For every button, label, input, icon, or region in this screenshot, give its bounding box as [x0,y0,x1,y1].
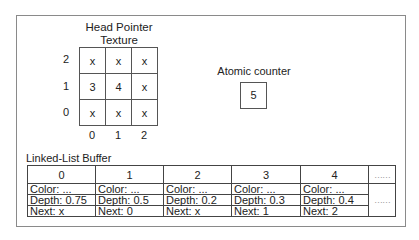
row-label: 0 [59,106,73,118]
node-next: Next: 0 [96,206,164,217]
node-index: 3 [232,166,301,184]
ellipsis-body: …… [369,184,396,217]
grid-cell: x [80,100,106,126]
node-index: 2 [164,166,232,184]
grid-cell: x [132,100,158,126]
node-color: Color: ... [28,184,96,195]
node-index: 1 [96,166,164,184]
node-index: 4 [301,166,369,184]
node-depth: Depth: 0.4 [301,195,369,206]
grid-row: x x x [80,48,158,74]
col-label: 0 [79,129,105,141]
grid-cell: x [132,48,158,74]
linked-list-table: 0 1 2 3 4 …… Color: ... Color: ... Color… [27,165,396,217]
col-label: 2 [131,129,157,141]
node-next: Next: 2 [301,206,369,217]
head-pointer-title: Head Pointer Texture [79,21,159,47]
ellipsis-header: …… [369,166,396,184]
grid-row: 3 4 x [80,74,158,100]
row-label: 1 [59,80,73,92]
linked-list-color-row: Color: ... Color: ... Color: ... Color: … [28,184,396,195]
col-label: 1 [105,129,131,141]
node-depth: Depth: 0.75 [28,195,96,206]
node-next: Next: x [164,206,232,217]
node-depth: Depth: 0.3 [232,195,301,206]
node-next: Next: x [28,206,96,217]
grid-row: x x x [80,100,158,126]
grid-cell: 3 [80,74,106,100]
row-label: 2 [59,53,73,65]
atomic-counter-label: Atomic counter [213,65,295,77]
node-color: Color: ... [301,184,369,195]
grid-cell: 4 [106,74,132,100]
node-next: Next: 1 [232,206,301,217]
linked-list-next-row: Next: x Next: 0 Next: x Next: 1 Next: 2 [28,206,396,217]
node-color: Color: ... [96,184,164,195]
node-color: Color: ... [232,184,301,195]
node-depth: Depth: 0.5 [96,195,164,206]
linked-list-title: Linked-List Buffer [26,152,111,164]
head-pointer-title-line2: Texture [79,34,159,47]
node-depth: Depth: 0.2 [164,195,232,206]
grid-cell: x [80,48,106,74]
head-pointer-title-line1: Head Pointer [79,21,159,34]
grid-cell: x [106,48,132,74]
linked-list-header-row: 0 1 2 3 4 …… [28,166,396,184]
node-index: 0 [28,166,96,184]
node-color: Color: ... [164,184,232,195]
grid-cell: x [132,74,158,100]
head-pointer-grid: x x x 3 4 x x x x [79,47,158,126]
atomic-counter-value: 5 [240,82,267,109]
linked-list-depth-row: Depth: 0.75 Depth: 0.5 Depth: 0.2 Depth:… [28,195,396,206]
grid-cell: x [106,100,132,126]
